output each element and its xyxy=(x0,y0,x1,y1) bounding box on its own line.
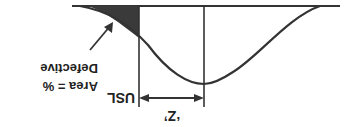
z-arrowhead-left xyxy=(194,94,204,102)
area-label-line2: Defective xyxy=(40,61,98,76)
z-arrowhead-right xyxy=(139,94,149,102)
usl-label: USL xyxy=(107,90,135,106)
z-label: ‘Z’ xyxy=(164,108,180,124)
diagram-canvas: ‘Z’ USL Area = % Defective xyxy=(0,0,348,127)
area-label-line1: Area = % xyxy=(42,79,98,94)
normal-distribution-diagram: ‘Z’ USL Area = % Defective xyxy=(0,0,348,127)
bell-curve xyxy=(80,6,320,84)
